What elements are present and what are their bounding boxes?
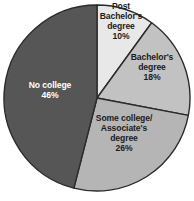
pie-label-line: 10% bbox=[113, 32, 130, 42]
pie-chart-canvas: PostBachelor'sdegree10%Bachelor'sdegree1… bbox=[0, 0, 194, 201]
pie-label-line: 18% bbox=[144, 72, 161, 82]
pie-label-line: Post bbox=[112, 1, 130, 11]
pie-slices-group bbox=[4, 5, 190, 191]
pie-label-line: degree bbox=[110, 133, 138, 143]
pie-chart: PostBachelor'sdegree10%Bachelor'sdegree1… bbox=[0, 0, 194, 201]
pie-label-line: degree bbox=[107, 21, 135, 31]
pie-label-line: 46% bbox=[42, 90, 59, 100]
pie-label-line: degree bbox=[138, 62, 166, 72]
pie-label-line: Some college/ bbox=[96, 113, 153, 123]
pie-label-line: Bachelor's bbox=[131, 52, 174, 62]
pie-label-line: 26% bbox=[116, 144, 133, 154]
pie-label-line: No college bbox=[29, 80, 72, 90]
pie-label-line: Associate's bbox=[101, 123, 148, 133]
pie-label-line: Bachelor's bbox=[100, 11, 143, 21]
